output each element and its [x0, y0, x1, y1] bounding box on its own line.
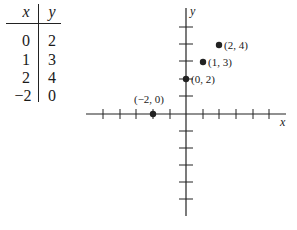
- point-label: (0, 2): [191, 73, 215, 86]
- point-label: (2, 4): [224, 39, 248, 52]
- point-label: (1, 3): [208, 56, 232, 69]
- y-axis-label: y: [189, 4, 196, 18]
- data-point: [200, 59, 206, 65]
- point-label: (−2, 0): [134, 93, 164, 106]
- data-point: [150, 111, 156, 117]
- x-axis-label: x: [279, 115, 286, 129]
- coordinate-plane: y x (2, 4) (1, 3) (0, 2) (−2, 0): [0, 0, 297, 230]
- data-point: [216, 42, 222, 48]
- data-point: [183, 76, 189, 82]
